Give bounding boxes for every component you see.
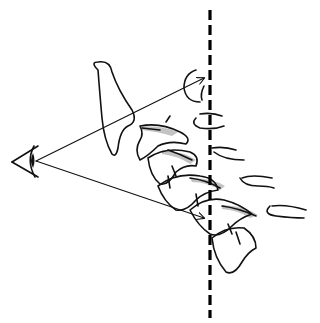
eye-icon [12,146,38,177]
vertebra-4 [190,199,252,235]
spine-viewing-diagram [0,0,320,323]
shading-1 [142,126,178,136]
skull-base-outline [94,62,134,155]
